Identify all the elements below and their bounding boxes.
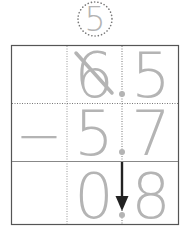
minuend-decimal-point xyxy=(119,91,125,97)
result-whole: 0 xyxy=(74,160,113,233)
result-decimal-point xyxy=(119,212,125,218)
borrow-note: 5 xyxy=(78,0,112,39)
result-tenths: 8 xyxy=(131,160,170,233)
subtrahend-decimal-point xyxy=(119,149,125,155)
borrow-digit: 5 xyxy=(85,0,106,39)
down-arrow-icon xyxy=(116,162,129,211)
minus-sign: − xyxy=(16,103,63,168)
